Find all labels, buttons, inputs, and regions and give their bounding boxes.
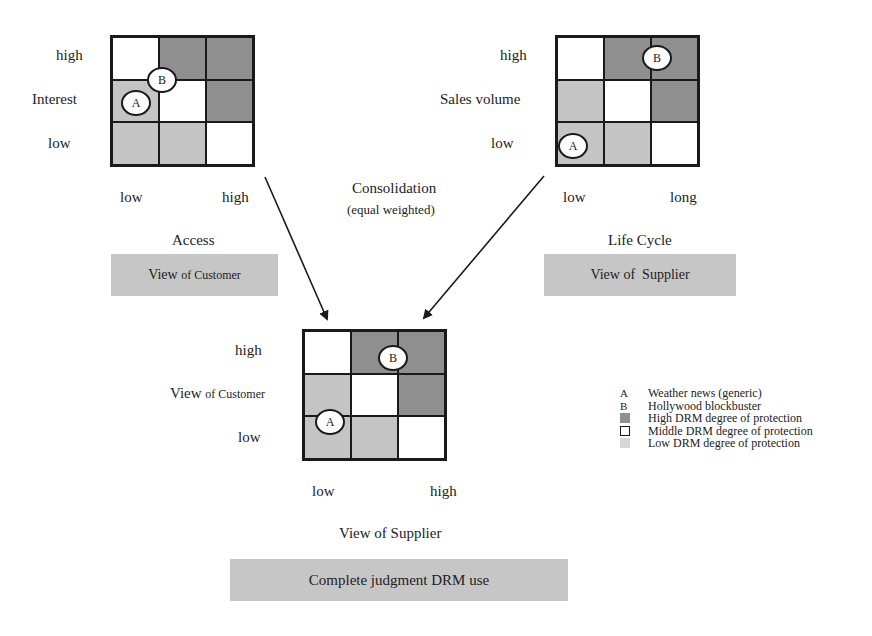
legend-swatch-slot [620,426,648,436]
result-x-label: View of Supplier [339,526,441,541]
legend-label: Weather news (generic) [648,387,762,400]
legend-key-a: A [620,387,648,400]
cell-mid [398,416,445,459]
legend-swatch-slot [620,438,648,448]
legend-key-b: B [620,400,648,413]
result-y-high: high [235,343,262,358]
cell-mid [304,331,351,374]
cell-mid [351,374,398,417]
legend-label: Low DRM degree of protection [648,437,800,450]
result-y-label: View of Customer [170,386,265,401]
legend-label: High DRM degree of protection [648,412,802,425]
legend-item-low: Low DRM degree of protection [620,437,813,450]
arrow-left-icon [265,177,327,319]
legend-swatch-slot [620,413,648,423]
result-x-low: low [312,484,335,499]
cell-high [398,374,445,417]
result-grid [302,329,447,461]
result-x-high: high [430,484,457,499]
low-swatch-icon [620,438,630,448]
legend: A Weather news (generic) B Hollywood blo… [620,387,813,450]
legend-item-high: High DRM degree of protection [620,412,813,425]
result-y-label-suffix: of Customer [205,387,265,401]
marker-b: B [378,345,408,371]
cell-low [351,416,398,459]
high-swatch-icon [620,413,630,423]
middle-swatch-icon [620,426,630,436]
legend-item-a: A Weather news (generic) [620,387,813,400]
result-y-label-prefix: View [170,385,202,401]
marker-a: A [315,409,345,435]
arrow-right-icon [424,176,544,318]
result-box-label: Complete judgment DRM use [309,572,489,589]
result-view-box: Complete judgment DRM use [230,559,568,601]
result-y-low: low [238,430,261,445]
